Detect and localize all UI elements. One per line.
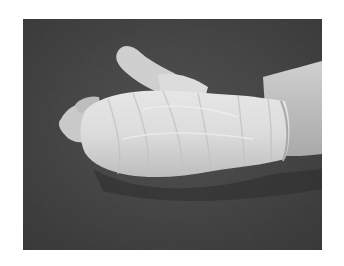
bandaged-hand-illustration	[23, 19, 322, 250]
photo: Grayscale photograph of a hand and wrist…	[23, 19, 322, 250]
bandage	[81, 90, 290, 177]
